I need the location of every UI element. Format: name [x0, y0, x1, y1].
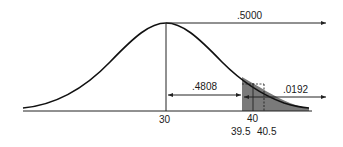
- normal-curve-diagram: .5000 .4808 .0192 30 40 39.5 40.5: [0, 0, 343, 147]
- label-mean-to-lower-area: .4808: [192, 81, 217, 92]
- tick-label-40: 40: [247, 113, 259, 124]
- tick-label-39-5: 39.5: [231, 126, 251, 137]
- label-upper-tail-area: .0192: [283, 84, 308, 95]
- label-right-half-area: .5000: [237, 10, 262, 21]
- tick-label-40-5: 40.5: [257, 126, 277, 137]
- tick-label-30: 30: [159, 114, 171, 125]
